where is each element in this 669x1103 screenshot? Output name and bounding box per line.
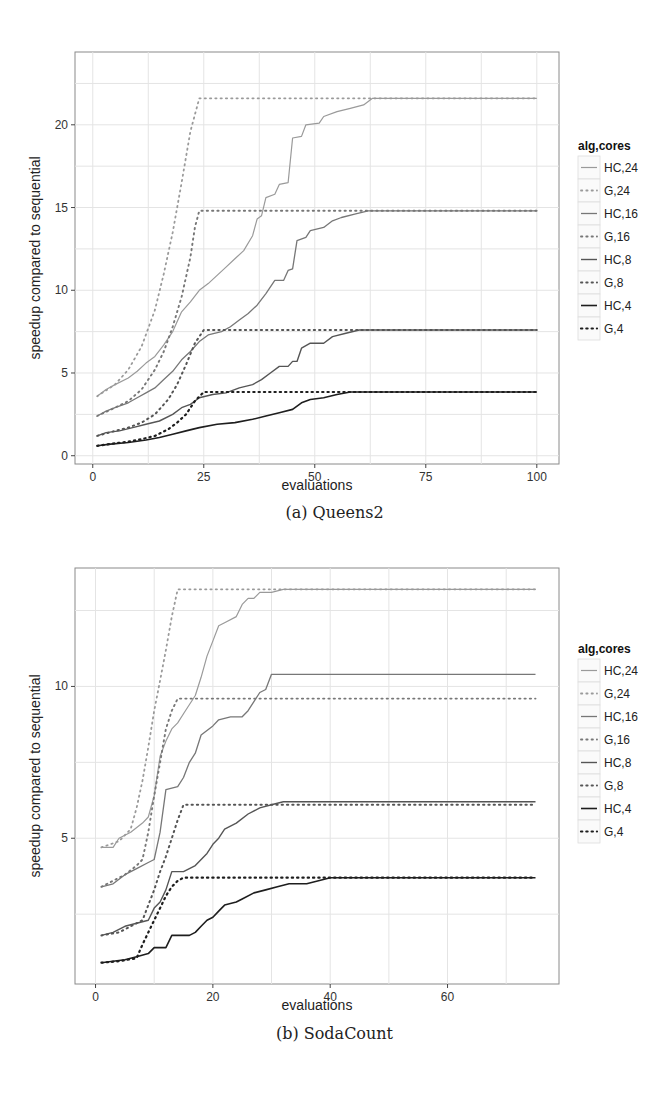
legend-title: alg,cores xyxy=(578,642,631,656)
legend-item: HC,16 xyxy=(578,202,638,225)
legend-item: G,16 xyxy=(578,728,630,751)
caption-queens2: (a) Queens2 xyxy=(0,503,669,522)
chart-queens2: 05101520 0255075100 evaluations speedup … xyxy=(0,0,669,550)
caption-sodacount: (b) SodaCount xyxy=(0,1024,669,1043)
legend-label: HC,24 xyxy=(604,664,638,678)
x-tick-label: 20 xyxy=(206,990,220,1004)
figure-queens2: 05101520 0255075100 evaluations speedup … xyxy=(0,0,669,550)
legend-item: G,8 xyxy=(578,774,624,797)
y-tick-label: 10 xyxy=(55,679,69,693)
x-axis-title: evaluations xyxy=(282,997,353,1013)
y-tick-label: 10 xyxy=(55,283,69,297)
x-tick-label: 75 xyxy=(419,470,433,484)
legend-item: G,4 xyxy=(578,820,624,843)
y-tick-label: 20 xyxy=(55,118,69,132)
legend-label: HC,4 xyxy=(604,802,632,816)
legend-item: HC,16 xyxy=(578,705,638,728)
legend-label: G,24 xyxy=(604,184,630,198)
legend: alg,cores HC,24G,24HC,16G,16HC,8G,8HC,4G… xyxy=(578,139,638,340)
x-tick-label: 100 xyxy=(527,470,547,484)
figure-sodacount: 510 0204060 evaluations speedup compared… xyxy=(0,550,669,1103)
y-axis: 05101520 xyxy=(55,118,75,463)
x-tick-label: 25 xyxy=(197,470,211,484)
y-tick-label: 5 xyxy=(61,831,68,845)
x-tick-label: 0 xyxy=(89,470,96,484)
x-axis-title: evaluations xyxy=(282,477,353,493)
plot-panel xyxy=(75,568,559,984)
plot-panel xyxy=(75,52,559,464)
y-tick-label: 5 xyxy=(61,366,68,380)
legend-item: HC,8 xyxy=(578,248,632,271)
x-tick-label: 0 xyxy=(92,990,99,1004)
y-tick-label: 0 xyxy=(61,449,68,463)
y-axis-title: speedup compared to sequential xyxy=(27,674,43,877)
legend-label: G,4 xyxy=(604,322,624,336)
legend-title: alg,cores xyxy=(578,139,631,153)
legend-label: G,24 xyxy=(604,687,630,701)
legend-item: G,24 xyxy=(578,682,630,705)
legend-label: G,4 xyxy=(604,825,624,839)
legend-item: G,16 xyxy=(578,225,630,248)
y-tick-label: 15 xyxy=(55,201,69,215)
legend-item: HC,24 xyxy=(578,659,638,682)
legend-label: HC,16 xyxy=(604,710,638,724)
legend-label: HC,8 xyxy=(604,756,632,770)
legend-item: G,24 xyxy=(578,179,630,202)
legend-label: G,8 xyxy=(604,276,624,290)
x-tick-label: 60 xyxy=(441,990,455,1004)
y-axis: 510 xyxy=(55,679,75,845)
y-axis-title: speedup compared to sequential xyxy=(27,156,43,359)
legend-item: G,8 xyxy=(578,271,624,294)
legend: alg,cores HC,24G,24HC,16G,16HC,8G,8HC,4G… xyxy=(578,642,638,843)
legend-label: G,16 xyxy=(604,733,630,747)
legend-label: HC,4 xyxy=(604,299,632,313)
legend-item: HC,4 xyxy=(578,294,632,317)
x-axis: 0204060 xyxy=(92,984,454,1004)
legend-label: HC,24 xyxy=(604,161,638,175)
legend-item: HC,24 xyxy=(578,156,638,179)
legend-item: HC,4 xyxy=(578,797,632,820)
chart-sodacount: 510 0204060 evaluations speedup compared… xyxy=(0,550,669,1103)
legend-item: HC,8 xyxy=(578,751,632,774)
legend-label: G,8 xyxy=(604,779,624,793)
legend-item: G,4 xyxy=(578,317,624,340)
legend-label: G,16 xyxy=(604,230,630,244)
legend-label: HC,16 xyxy=(604,207,638,221)
legend-label: HC,8 xyxy=(604,253,632,267)
